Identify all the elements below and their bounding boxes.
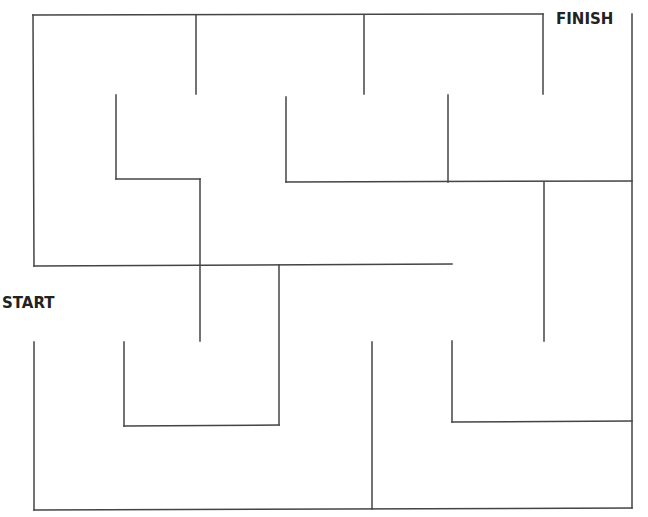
maze-wall [34,264,452,266]
maze-wall [33,14,543,15]
start-label: START [2,294,55,312]
maze-walls [0,0,648,517]
maze-wall [124,425,279,426]
maze-wall [34,508,632,510]
maze-wall [286,181,632,182]
finish-label: FINISH [556,10,613,28]
maze-wall [33,15,34,266]
maze-wall [452,421,632,422]
